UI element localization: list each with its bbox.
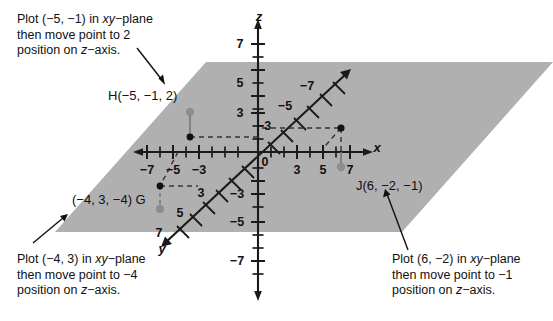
callout-j-line2: then move point to −1: [392, 268, 521, 284]
coordinate-system-figure: z x y 0 7 5 3 −3 −5 −7 −7 −5 −3 3 5 7 3 …: [0, 0, 553, 321]
point-J-label: J(6, −2, −1): [356, 178, 422, 193]
x-axis-name: x: [373, 140, 380, 155]
origin-label: 0: [262, 155, 269, 169]
point-G-dot: [156, 205, 164, 213]
callout-j-caption: Plot (6, −2) in xy−plane then move point…: [392, 252, 521, 299]
y-tick-neg5: −5: [278, 99, 292, 113]
point-H-base-dot: [187, 134, 194, 141]
callout-h-line1: Plot (−5, −1) in xy−plane: [17, 12, 153, 28]
callout-h-line2: then move point to 2: [17, 28, 153, 44]
callout-h-line3: position on z−axis.: [17, 43, 153, 59]
x-tick-7: 7: [347, 163, 354, 177]
callout-g-line2: then move point to −4: [17, 268, 146, 284]
callout-j-line1: Plot (6, −2) in xy−plane: [392, 252, 521, 268]
x-tick-neg3: −3: [192, 163, 206, 177]
callout-g-caption: Plot (−4, 3) in xy−plane then move point…: [17, 252, 146, 299]
callout-h-caption: Plot (−5, −1) in xy−plane then move poin…: [17, 12, 153, 59]
x-tick-5: 5: [320, 163, 327, 177]
y-tick-neg7: −7: [300, 79, 314, 93]
x-tick-neg7: −7: [140, 163, 154, 177]
point-G-label: (−4, 3, −4) G: [72, 192, 146, 207]
point-H-label: H(−5, −1, 2): [108, 88, 177, 103]
z-tick-5: 5: [237, 76, 244, 90]
point-H-dot: [186, 108, 194, 116]
z-tick-7: 7: [237, 37, 244, 51]
y-tick-7: 7: [156, 226, 163, 240]
y-tick-neg3: −3: [257, 119, 271, 133]
callout-g-line3: position on z−axis.: [17, 283, 146, 299]
y-axis-name: y: [158, 241, 165, 256]
callout-j-line3: position on z−axis.: [392, 283, 521, 299]
y-tick-5: 5: [177, 206, 184, 220]
point-J-base-dot: [337, 124, 344, 131]
z-tick-neg5: −5: [230, 215, 244, 229]
x-tick-3: 3: [294, 163, 301, 177]
z-tick-neg3: −3: [230, 187, 244, 201]
point-G-base-dot: [157, 183, 164, 190]
callout-g-line1: Plot (−4, 3) in xy−plane: [17, 252, 146, 268]
x-tick-neg5: −5: [166, 163, 180, 177]
point-J-dot: [337, 163, 345, 171]
z-axis-name: z: [256, 9, 263, 24]
y-tick-3: 3: [198, 186, 205, 200]
z-tick-neg7: −7: [230, 254, 244, 268]
z-tick-3: 3: [237, 106, 244, 120]
